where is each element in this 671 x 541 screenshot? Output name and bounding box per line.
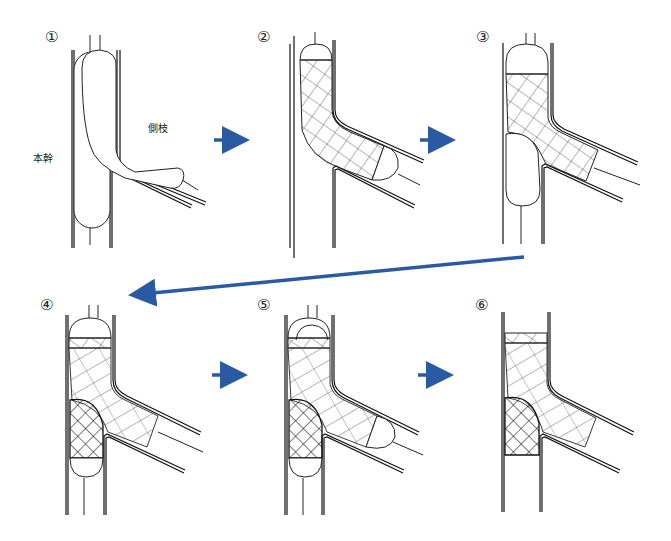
step-1-number: ① xyxy=(45,28,58,46)
step-5-number: ⑤ xyxy=(257,296,270,314)
arrow-3-to-4 xyxy=(142,257,524,294)
side-branch-label: 側枝 xyxy=(148,122,168,134)
step-4: ④ xyxy=(40,296,203,515)
step-3-number: ③ xyxy=(476,28,489,46)
step-5: ⑤ xyxy=(257,296,423,515)
step-2: ② xyxy=(257,28,424,258)
step-6: ⑥ xyxy=(475,296,634,512)
step-2-number: ② xyxy=(257,28,270,46)
step-3: ③ xyxy=(476,28,640,244)
step-1: ① 本幹 側枝 xyxy=(33,28,206,248)
bifurcation-procedure-diagram: ① 本幹 側枝 ② xyxy=(0,0,671,541)
main-trunk-label: 本幹 xyxy=(33,152,53,164)
stent-main-to-side xyxy=(300,60,384,180)
main-balloon xyxy=(289,458,322,477)
step-6-number: ⑥ xyxy=(475,296,488,314)
step-4-number: ④ xyxy=(40,296,53,314)
